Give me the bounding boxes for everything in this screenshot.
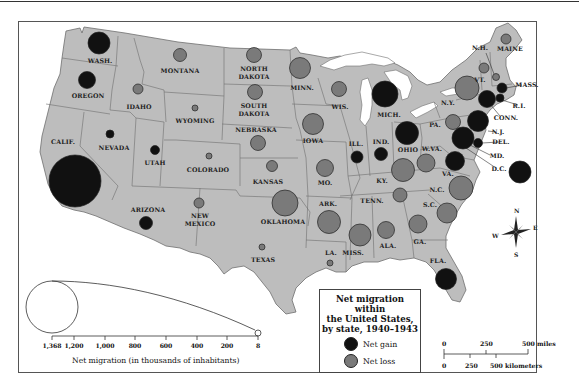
size-key [26,281,261,340]
state-label: PA. [429,121,441,128]
state-label: ALA. [379,242,397,249]
state-label: ARK. [318,200,337,207]
state-label: IDAHO [126,103,152,110]
state-label: WASH. [87,57,113,64]
state-label: ILL. [349,140,363,147]
us-map: N S E W WASH.OREGONCALIF.NEVADAIDAHOMONT… [0,0,579,388]
state-label: OHIO [398,146,419,153]
migration-circle-texas [259,244,265,250]
size-key-title: Net migration (in thousands of inhabitan… [72,356,239,365]
migration-circle-la [327,260,333,266]
size-key-tick-label: 1,368 [42,342,61,349]
compass-w: W [491,232,499,239]
size-key-tick-label: 1,200 [64,342,83,349]
migration-circle-conn [479,91,496,108]
state-label: N.Y. [441,99,455,106]
state-label: GA. [414,238,427,245]
migration-circle-minn [290,58,311,79]
state-label: IND. [373,138,390,145]
state-label: D.C. [492,165,507,172]
state-label: TENN. [360,197,383,204]
migration-circle-new-mexico [194,198,204,208]
state-label: COLORADO [187,166,230,173]
migration-circle-utah [151,146,160,155]
state-label: VT. [473,76,485,83]
migration-circle-n-j [468,111,489,132]
state-label: SOUTH [241,102,268,109]
compass-rose-icon: N S E W [491,207,538,258]
state-label: OKLAHOMA [261,218,305,225]
migration-circle-wis [332,82,347,97]
net-gain-dot-icon [344,337,358,351]
legend-box: Net migration within the United States, … [319,289,421,373]
legend-loss: Net loss [344,354,420,368]
migration-circle-ky [392,159,415,182]
scale-miles-250: 250 [480,340,493,347]
state-label: FLA. [430,257,446,264]
state-label: TEXAS [251,256,275,263]
size-key-tick-label: 8 [256,342,260,349]
state-label: NEBRASKA [235,126,276,133]
migration-circle-va [446,152,465,171]
scale-km-0: 0 [442,362,446,369]
migration-circle-ga [409,215,427,233]
state-label: DAKOTA [239,73,270,80]
migration-circle-ala [378,222,395,239]
net-loss-dot-icon [344,354,358,368]
size-key-tick-label: 400 [191,342,204,349]
migration-circle-ind [375,148,388,161]
migration-circle-r-i [496,94,504,102]
size-key-curve [52,281,255,330]
migration-circle-mich [372,81,398,107]
state-label: MONTANA [161,67,200,74]
state-label: MEXICO [185,220,216,227]
migration-circle-d-c [509,161,531,183]
state-label: NEW [191,212,210,219]
scale-miles-500: 500 miles [522,340,556,347]
migration-circle-nebraska [251,136,266,151]
migration-circle-kansas [267,161,278,172]
migration-circle-oregon [79,72,96,89]
state-label: MICH. [377,111,401,118]
state-label: WIS. [331,103,349,110]
size-key-tick-label: 800 [129,342,142,349]
migration-circle-south-dakota [248,85,263,100]
state-label: N.J. [492,128,505,136]
migration-circle-vt [479,63,489,73]
migration-circle-w-va [417,154,435,172]
state-label: OREGON [72,92,105,99]
migration-circle-fla [436,269,457,290]
state-label: KANSAS [253,178,284,185]
size-key-min-circle [255,330,261,336]
migration-circle-md [452,127,474,149]
migration-circle-arizona [140,217,153,230]
migration-circle-maine [501,34,511,44]
legend-title: Net migration within the United States, … [320,294,420,334]
size-key-tick-label: 200 [221,342,234,349]
migration-circle-mass [497,83,507,93]
state-label: UTAH [144,159,165,166]
compass-n: N [514,207,520,214]
compass-e: E [533,224,538,231]
migration-circle-calif [49,155,101,207]
state-label: MO. [318,179,333,186]
migration-circle-tenn [393,188,407,202]
legend-gain: Net gain [344,337,420,351]
state-label: MASS. [515,81,538,88]
state-label: WYOMING [175,117,215,124]
scale-km-500: 500 kilometers [490,362,542,369]
state-label: LA. [325,249,337,256]
state-label: CONN. [494,114,518,121]
migration-circle-idaho [133,84,143,94]
migration-circle-pa [446,115,461,130]
migration-circle-ohio [396,122,419,145]
migration-circle-miss [349,224,371,246]
migration-circle-mo [317,160,334,177]
state-label: VA. [441,170,454,177]
scale-km-250: 250 [465,362,478,369]
size-key-tick-label: 1,000 [95,342,114,349]
migration-circle-wyoming [192,105,198,111]
state-label: NORTH [240,65,268,72]
state-label: IOWA [303,137,323,144]
size-key-max-circle [26,281,78,333]
